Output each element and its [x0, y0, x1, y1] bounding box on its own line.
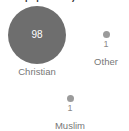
bubble-value-muslim: 1: [45, 103, 95, 114]
bubble-group-other[interactable]: 1 Other: [83, 31, 129, 68]
bubble-value-other: 1: [83, 39, 129, 50]
bubble-group-christian[interactable]: 98 Christian: [0, 6, 74, 78]
bubble-value-christian: 98: [0, 30, 74, 40]
bubble-chart: % of population) 98 Christian 1 Other 1 …: [0, 0, 129, 131]
bubble-label-christian: Christian: [0, 66, 74, 78]
bubble-other[interactable]: [103, 31, 110, 38]
bubble-label-muslim: Muslim: [45, 120, 95, 131]
bubble-group-muslim[interactable]: 1 Muslim: [45, 95, 95, 131]
bubble-label-other: Other: [83, 56, 129, 68]
chart-title: % of population): [3, 0, 129, 3]
bubble-muslim[interactable]: [67, 95, 74, 102]
